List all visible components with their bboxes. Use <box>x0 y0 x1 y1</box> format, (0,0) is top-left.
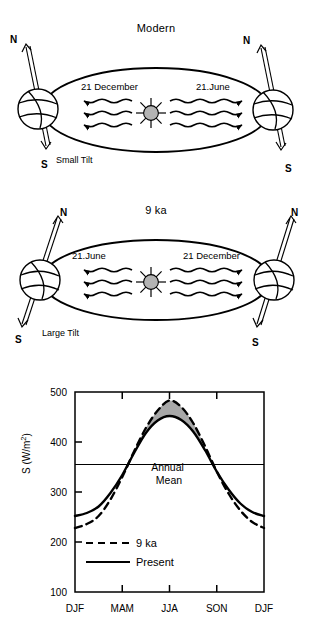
x-tick-label: DJF <box>66 603 84 614</box>
sun-icon <box>136 267 166 297</box>
insolation-chart: S (W/m2) 500400300200100 DJFMAMJJASONDJF… <box>0 356 312 644</box>
x-tick-label: MAM <box>111 603 134 614</box>
label-north-right: N <box>291 207 298 218</box>
annual-mean-line2: Mean <box>156 474 182 486</box>
earth-globe-left <box>18 44 58 149</box>
solar-rays-left <box>84 99 132 127</box>
y-axis-label-main: S (W/m <box>21 441 32 474</box>
y-axis-label: S (W/m2) <box>19 433 32 474</box>
y-tick-label: 300 <box>50 487 67 498</box>
label-season-right-9ka: 21 December <box>183 250 240 261</box>
panel-9ka-orbit: 9 ka <box>0 196 312 356</box>
legend-label-9ka: 9 ka <box>136 537 158 549</box>
label-season-right-modern: 21.June <box>196 81 230 92</box>
label-season-left-9ka: 21.June <box>72 250 106 261</box>
label-tilt-modern: Small Tilt <box>56 155 93 165</box>
shaded-area <box>134 400 205 453</box>
label-north-right: N <box>243 35 250 46</box>
annual-mean-line1: Annual <box>151 461 184 473</box>
legend-label-present: Present <box>136 556 174 568</box>
label-south-left: S <box>41 159 48 170</box>
x-axis-ticks: DJFMAMJJASONDJF <box>66 392 273 614</box>
nine-ka-orbit-diagram: N S Large Tilt N S <box>0 196 312 356</box>
chart-legend: 9 ka Present <box>86 537 174 568</box>
label-south-right: S <box>285 163 292 174</box>
y-tick-label: 400 <box>50 437 67 448</box>
annual-mean-label: Annual Mean <box>151 461 187 486</box>
label-season-left-modern: 21 December <box>81 81 138 92</box>
solar-rays-right <box>170 268 242 296</box>
sun-icon <box>136 98 166 128</box>
modern-orbit-diagram: N S Small Tilt N S <box>0 0 312 196</box>
y-tick-label: 500 <box>50 387 67 398</box>
x-tick-label: SON <box>206 603 228 614</box>
x-tick-label: DJF <box>255 603 273 614</box>
panel-modern-orbit: Modern <box>0 0 312 196</box>
label-south-left: S <box>15 334 22 345</box>
insolation-figure: Modern <box>0 0 312 644</box>
earth-globe-left <box>18 216 63 327</box>
label-tilt-9ka: Large Tilt <box>42 328 80 338</box>
solar-rays-left <box>84 268 132 296</box>
shaded-region <box>134 400 205 453</box>
earth-globe-right <box>253 45 293 150</box>
panel-insolation-chart: S (W/m2) 500400300200100 DJFMAMJJASONDJF… <box>0 356 312 644</box>
earth-globe-right <box>253 216 296 327</box>
svg-text:S (W/m2): S (W/m2) <box>19 433 32 474</box>
label-north-left: N <box>10 34 17 45</box>
y-axis-label-close: ) <box>21 433 32 436</box>
label-north-left: N <box>60 207 67 218</box>
y-tick-label: 200 <box>50 537 67 548</box>
y-tick-label: 100 <box>50 587 67 598</box>
x-tick-label: JJA <box>161 603 178 614</box>
solar-rays-right <box>170 99 242 127</box>
label-south-right: S <box>252 337 259 348</box>
y-axis-ticks: 500400300200100 <box>50 387 82 598</box>
